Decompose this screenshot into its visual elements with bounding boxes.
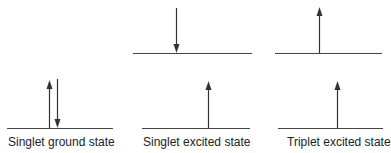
label-singlet-ground-state: Singlet ground state [8,135,115,149]
label-singlet-excited-state: Singlet excited state [143,135,250,149]
label-triplet-excited-state: Triplet excited state [287,135,391,149]
panel-singlet-excited [133,8,252,129]
spin-down-arrow-icon [174,8,180,53]
spin-up-arrow-icon [47,80,53,128]
panel-triplet-excited [275,7,383,129]
panel-singlet-ground [7,79,113,129]
spin-up-arrow-icon [335,81,341,128]
spin-down-arrow-icon [55,79,61,128]
spin-up-arrow-icon [317,7,323,53]
spin-up-arrow-icon [206,81,212,128]
